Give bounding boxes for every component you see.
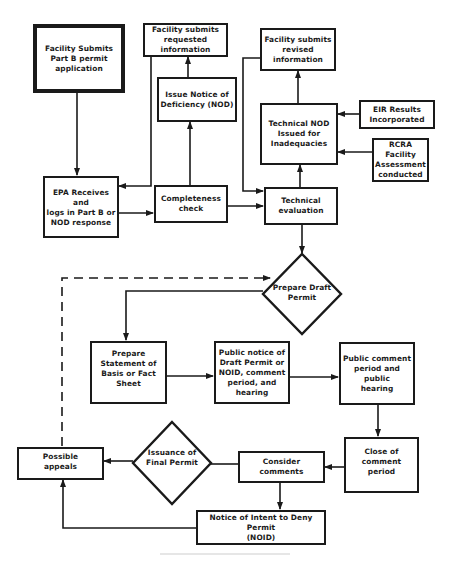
node-label: Technical evaluation [278, 196, 323, 216]
node-prepare-statement: Prepare Statement of Basis or Fact Sheet [90, 341, 167, 404]
node-close-comment: Close of comment period [344, 437, 419, 493]
node-label: RCRA Facility Assessment conducted [374, 140, 427, 180]
node-epa-receives: EPA Receives and logs in Part B or NOD r… [43, 176, 119, 238]
node-submit-requested-info: Facility submits requested information [143, 23, 228, 57]
node-technical-nod: Technical NOD Issued for Inadequacies [260, 103, 338, 165]
node-label: Prepare Draft Permit [273, 283, 331, 303]
node-label: Close of comment period [362, 447, 401, 477]
node-consider-comments: Consider comments [238, 451, 325, 483]
node-label: Issue Notice of Deficiency (NOD) [161, 90, 234, 110]
permit-process-flowchart: Facility Submits Part B permit applicati… [0, 0, 453, 564]
node-label: EIR Results Incorporated [369, 105, 424, 125]
node-label: Facility Submits Part B permit applicati… [45, 44, 113, 74]
node-submit-application: Facility Submits Part B permit applicati… [33, 24, 125, 93]
node-public-notice: Public notice of Draft Permit or NOID, c… [214, 341, 290, 404]
faint-caption-smudge [160, 553, 290, 555]
arrow-draft-to-statement [126, 291, 263, 340]
node-completeness-check: Completeness check [154, 185, 228, 223]
node-rcra-assessment: RCRA Facility Assessment conducted [372, 138, 429, 182]
node-submit-revised-info: Facility submits revised information [260, 28, 336, 71]
node-possible-appeals: Possible appeals [17, 447, 104, 480]
node-label: Technical NOD Issued for Inadequacies [269, 119, 330, 149]
node-label: Public notice of Draft Permit or NOID, c… [219, 348, 286, 398]
node-label: Facility submits requested information [152, 25, 219, 55]
node-eir-results: EIR Results Incorporated [359, 100, 435, 129]
decision-prepare-draft-permit: Prepare Draft Permit [270, 280, 334, 306]
node-label: Possible appeals [43, 452, 78, 472]
node-label: Consider comments [240, 457, 323, 477]
node-label: Completeness check [161, 194, 221, 214]
node-technical-evaluation: Technical evaluation [264, 187, 338, 225]
node-label: Prepare Statement of Basis or Fact Sheet [101, 349, 157, 389]
node-issue-nod: Issue Notice of Deficiency (NOD) [157, 77, 237, 122]
node-public-comment: Public comment period and public hearing [339, 342, 415, 405]
node-noid: Notice of Intent to Deny Permit (NOID) [196, 510, 326, 545]
node-label: Notice of Intent to Deny Permit (NOID) [198, 513, 324, 543]
node-label: Facility submits revised information [264, 35, 331, 65]
decision-issuance-final-permit: Issuance of Final Permit [140, 446, 204, 470]
node-label: Public comment period and public hearing [341, 354, 413, 394]
node-label: EPA Receives and logs in Part B or NOD r… [45, 188, 117, 228]
node-label: Issuance of Final Permit [146, 448, 198, 468]
